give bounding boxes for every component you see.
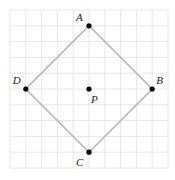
- label-d: D: [12, 74, 21, 86]
- point-d: [23, 86, 28, 91]
- point-b: [150, 86, 155, 91]
- label-c: C: [76, 156, 84, 168]
- label-b: B: [156, 74, 163, 86]
- label-a: A: [75, 11, 83, 23]
- point-c: [86, 150, 91, 155]
- label-p: P: [90, 93, 98, 105]
- diagram-canvas: ABCDP: [0, 0, 175, 180]
- point-p: [86, 86, 91, 91]
- point-a: [86, 23, 91, 28]
